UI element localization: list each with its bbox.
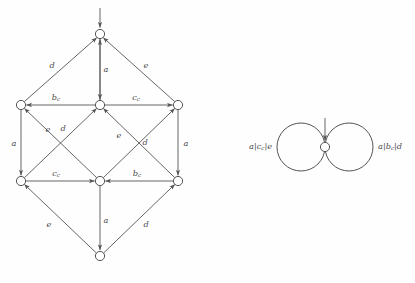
node-mid-center[interactable] xyxy=(95,100,104,109)
figure-canvas: d a e bc cc a a e d e d cc bc e a d xyxy=(0,0,415,283)
edge-label-bc-lowright: bc xyxy=(133,168,142,178)
edge-bottom-to-lowleft xyxy=(24,184,96,253)
edge-label-e-bottomleft: e xyxy=(47,219,52,229)
edge-label-d-bottomright: d xyxy=(143,219,148,229)
node-low-center[interactable] xyxy=(95,176,104,185)
node-low-left[interactable] xyxy=(16,176,25,185)
edge-midleft-to-top xyxy=(24,38,97,102)
edge-label-d-innerleft: d xyxy=(60,123,65,133)
automaton-figure: d a e bc cc a a e d e d cc bc e a d xyxy=(0,0,415,283)
node-low-right[interactable] xyxy=(173,176,182,185)
edge-bottom-to-lowright xyxy=(103,184,174,253)
edge-label-e-topright: e xyxy=(144,60,149,70)
edge-label-bc-midleft: bc xyxy=(52,92,61,102)
node-bottom[interactable] xyxy=(95,251,104,260)
edge-label-a-topcenter: a xyxy=(104,64,109,74)
edge-label-e-innerleft: e xyxy=(46,124,51,134)
node-top[interactable] xyxy=(95,29,104,38)
edge-midright-to-top xyxy=(103,38,175,102)
self-loop-right-label: a|bc|d xyxy=(378,141,402,151)
edge-label-cc-midright: cc xyxy=(132,92,141,102)
edge-label-cc-lowleft: cc xyxy=(52,168,61,178)
edge-label-e-innerright: e xyxy=(117,130,122,140)
edge-label-a-rightside: a xyxy=(184,138,189,148)
edge-label-a-bottomcenter: a xyxy=(104,215,109,225)
self-loop-left-label: a|cc|e xyxy=(249,141,272,151)
self-loop-right[interactable] xyxy=(325,123,373,171)
left-automaton: d a e bc cc a a e d e d cc bc e a d xyxy=(12,8,189,261)
self-loop-left[interactable] xyxy=(277,123,325,171)
node-mid-right[interactable] xyxy=(173,100,182,109)
edge-label-d-innerright: d xyxy=(142,137,147,147)
edge-label-a-leftside: a xyxy=(12,138,17,148)
edge-label-d-topleft: d xyxy=(49,60,54,70)
right-automaton: a|cc|e a|bc|d xyxy=(249,118,402,171)
node-single[interactable] xyxy=(320,142,329,151)
node-mid-left[interactable] xyxy=(16,100,25,109)
